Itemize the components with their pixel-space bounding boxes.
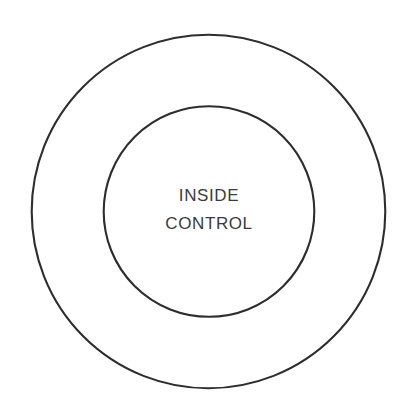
inner-circle-label-line-2: CONTROL <box>0 210 418 238</box>
diagram-canvas: INSIDE CONTROL <box>0 0 418 416</box>
inner-circle-label-line-1: INSIDE <box>0 182 418 210</box>
inner-circle-label: INSIDE CONTROL <box>0 182 418 238</box>
